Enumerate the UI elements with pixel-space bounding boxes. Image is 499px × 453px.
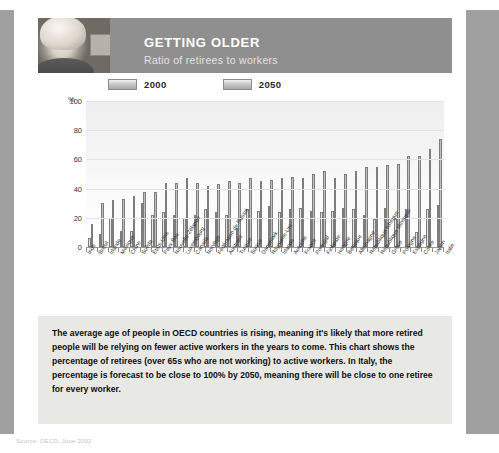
legend-swatch-2000 [108, 79, 137, 90]
bar-group [331, 101, 336, 247]
photo-monitor [90, 34, 110, 56]
source-caption: Source: OECD, June 2002 [16, 438, 92, 444]
bar-group [310, 101, 315, 247]
bar-group [109, 101, 114, 247]
bar-group [183, 101, 188, 247]
legend-item-2050: 2050 [223, 79, 282, 90]
bar-group [268, 101, 273, 247]
bar-2050 [429, 149, 432, 247]
bar-group [151, 101, 156, 247]
bar-2050 [312, 174, 315, 247]
bar-group [204, 101, 209, 247]
legend-label-2050: 2050 [259, 79, 282, 90]
bar-group [173, 101, 178, 247]
bar-2050 [418, 156, 421, 247]
bar-group [246, 101, 251, 247]
bar-group [130, 101, 135, 247]
bar-group [415, 101, 420, 247]
gridline [86, 101, 444, 102]
page-title: GETTING OLDER [144, 35, 260, 50]
infographic-card: GETTING OLDER Ratio of retirees to worke… [14, 10, 466, 434]
bar-2050 [397, 164, 400, 247]
bar-group [299, 101, 304, 247]
bar-2050 [439, 139, 442, 247]
y-tick-label: 100 [69, 97, 82, 106]
legend-swatch-2050 [223, 79, 252, 90]
y-tick-label: 60 [74, 155, 82, 164]
y-axis-labels: 100806040200 [60, 101, 84, 247]
chart-legend: 2000 2050 [108, 79, 281, 90]
page-subtitle: Ratio of retirees to workers [144, 54, 278, 66]
infographic-page: GETTING OLDER Ratio of retirees to worke… [0, 0, 499, 453]
y-tick-label: 40 [74, 184, 82, 193]
bar-group [363, 101, 368, 247]
x-tick-label: Italie [444, 242, 455, 255]
bar-group [320, 101, 325, 247]
page-margin-right [466, 0, 499, 434]
bar-group [120, 101, 125, 247]
y-tick-label: 0 [78, 243, 82, 252]
bar-2050 [407, 156, 410, 247]
x-axis-labels: IndeBrésilIrlandeMexiqueChineSuèdeÉtats-… [86, 252, 452, 310]
bar-group [215, 101, 220, 247]
gridline [86, 130, 444, 131]
description-panel: The average age of people in OECD countr… [38, 316, 452, 424]
bar-group [88, 101, 93, 247]
bar-2050 [260, 181, 263, 247]
bar-2050 [154, 192, 157, 247]
gridline [86, 189, 444, 190]
bar-group [225, 101, 230, 247]
y-tick-label: 20 [74, 213, 82, 222]
bar-group [342, 101, 347, 247]
bar-group [99, 101, 104, 247]
page-margin-top [0, 0, 499, 10]
y-tick-label: 80 [74, 126, 82, 135]
bar-group [426, 101, 431, 247]
legend-label-2000: 2000 [144, 79, 167, 90]
bar-group [437, 101, 442, 247]
legend-item-2000: 2000 [108, 79, 167, 90]
bar-group [141, 101, 146, 247]
bar-group [352, 101, 357, 247]
bar-2050 [143, 192, 146, 247]
description-text: The average age of people in OECD countr… [38, 316, 452, 397]
photo-hair [40, 18, 86, 50]
bar-group [405, 101, 410, 247]
bar-group [278, 101, 283, 247]
bar-2050 [291, 177, 294, 247]
bar-2050 [122, 199, 125, 247]
gridline [86, 159, 444, 160]
bar-group [257, 101, 262, 247]
bar-group [373, 101, 378, 247]
older-woman-photo [38, 18, 110, 73]
page-margin-left [0, 0, 14, 434]
bar-group [162, 101, 167, 247]
chart-panel: 2000 2050 % 100806040200 IndeBrésilIrlan… [38, 73, 452, 313]
